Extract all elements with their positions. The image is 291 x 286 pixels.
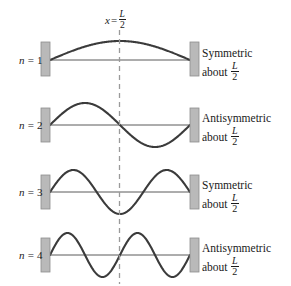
right-wall-mode-1 [190, 42, 199, 76]
right-wall-mode-3 [190, 175, 199, 209]
left-wall-mode-3 [41, 175, 50, 209]
standing-wave-figure: x=L2 n = 1 Symmetric about L2 n = 2 Anti… [0, 0, 291, 286]
left-wall-mode-2 [41, 108, 50, 142]
left-wall-mode-1 [41, 42, 50, 76]
figure-canvas [0, 0, 291, 286]
right-wall-mode-4 [190, 238, 199, 272]
left-wall-mode-4 [41, 238, 50, 272]
right-wall-mode-2 [190, 108, 199, 142]
